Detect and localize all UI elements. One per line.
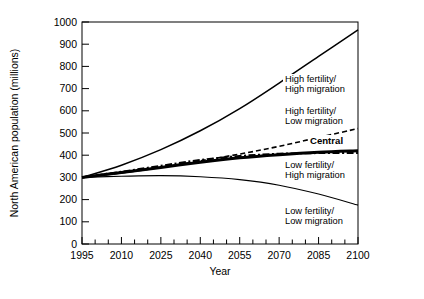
x-tick-label-2040: 2040 — [189, 249, 213, 261]
y-tick-label-800: 800 — [59, 60, 77, 72]
y-tick-label-900: 900 — [59, 38, 77, 50]
series-label-high-high-line2: High migration — [285, 84, 345, 94]
x-tick-label-2085: 2085 — [307, 249, 331, 261]
x-tick-label-2070: 2070 — [267, 249, 291, 261]
y-tick-label-1000: 1000 — [54, 16, 78, 28]
series-label-low-high-line2: High migration — [285, 170, 345, 180]
y-tick-label-500: 500 — [59, 127, 77, 139]
series-label-low-high-line1: Low fertility/ — [285, 160, 334, 170]
series-label-high-low-line1: High fertility/ — [285, 106, 337, 116]
series-label-low-low-line1: Low fertility/ — [285, 206, 334, 216]
x-tick-label-2010: 2010 — [110, 249, 134, 261]
x-tick-label-1995: 1995 — [70, 249, 94, 261]
y-tick-label-300: 300 — [59, 171, 77, 183]
y-tick-label-200: 200 — [59, 193, 77, 205]
population-projection-chart: 0 100 200 300 400 500 600 700 800 900 10… — [0, 0, 424, 299]
y-tick-label-600: 600 — [59, 104, 77, 116]
x-axis-title: Year — [209, 265, 231, 277]
series-label-high-high-line1: High fertility/ — [285, 74, 337, 84]
series-label-low-low-line2: Low migration — [285, 216, 343, 226]
x-tick-label-2025: 2025 — [149, 249, 173, 261]
y-tick-label-0: 0 — [71, 238, 77, 250]
x-tick-label-2055: 2055 — [228, 249, 252, 261]
y-axis-title: North American population (millions) — [8, 49, 20, 218]
chart-figure: 0 100 200 300 400 500 600 700 800 900 10… — [0, 0, 424, 299]
y-tick-label-400: 400 — [59, 149, 77, 161]
y-tick-label-100: 100 — [59, 215, 77, 227]
series-label-central: Central — [310, 135, 343, 146]
y-tick-label-700: 700 — [59, 82, 77, 94]
x-tick-label-2100: 2100 — [346, 249, 370, 261]
series-label-high-low-line2: Low migration — [285, 116, 343, 126]
